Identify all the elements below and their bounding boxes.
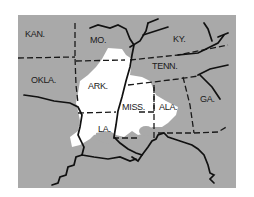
state-label-okla: OKLA.: [31, 75, 56, 85]
state-label-ark: ARK.: [88, 81, 108, 91]
state-label-tenn: TENN.: [152, 61, 178, 71]
state-label-kan: KAN.: [25, 29, 45, 39]
state-label-ky: KY.: [173, 34, 185, 44]
state-label-ga: GA.: [200, 94, 215, 104]
map-frame: KAN. MO. KY. OKLA. TENN. ARK. MISS. ALA.…: [18, 15, 236, 188]
state-label-mo: MO.: [90, 35, 106, 45]
state-label-miss: MISS.: [122, 102, 145, 112]
state-label-la: LA.: [98, 124, 111, 134]
state-label-ala: ALA.: [159, 102, 177, 112]
